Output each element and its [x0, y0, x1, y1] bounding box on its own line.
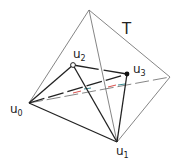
edge-u2-u3: [73, 65, 127, 74]
label-u0: u0: [10, 102, 23, 118]
tetrahedron-diagram: T u0 u1 u2 u3: [0, 0, 179, 163]
u2-open-marker: [71, 63, 76, 68]
edge-u0-u1: [29, 103, 117, 142]
label-T: T: [121, 20, 132, 38]
outer-tetrahedron-edges: [29, 10, 170, 142]
label-u1: u1: [116, 144, 129, 160]
accent-red-2: [108, 85, 116, 87]
edge-u0-right-hidden: [29, 77, 170, 103]
label-u3: u3: [133, 62, 146, 78]
edge-u0-u2: [29, 65, 73, 103]
u3-filled-marker: [125, 72, 130, 77]
accent-teal-2: [118, 84, 125, 85]
edge-u2-u1: [73, 65, 117, 142]
accent-teal: [84, 88, 91, 89]
hidden-edge-accents: [73, 84, 125, 93]
accent-red: [73, 91, 81, 93]
label-u2: u2: [73, 47, 86, 63]
edge-u0-u3: [29, 74, 127, 103]
inner-tetrahedron-edges: [29, 65, 127, 142]
